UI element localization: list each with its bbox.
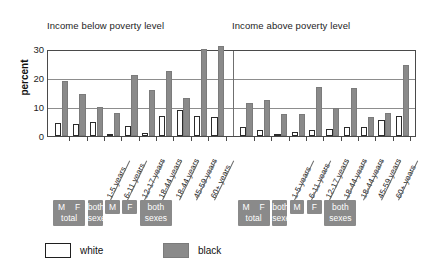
bar-white-both-sexes-above	[274, 134, 280, 136]
category-box-both-sexes-1-below: bothsexes	[88, 200, 103, 226]
bar-white-60+-years-below	[211, 117, 217, 136]
bar-black-60+-years-above	[403, 65, 409, 136]
panel-title-right: Income above poverty level	[232, 20, 350, 31]
bar-black-1-5-years-below	[114, 113, 120, 136]
bar-black-18-44-years-above	[351, 88, 357, 136]
bar-white-12-17-years-below	[142, 133, 148, 136]
category-box-both-sexes-1-above: bothsexes	[272, 200, 287, 226]
catbox-m-above: M	[242, 202, 249, 213]
bar-black-f-total-below	[79, 94, 85, 136]
bar-white-both-sexes-below	[90, 122, 96, 137]
bar-black-12-17-years-above	[333, 108, 339, 136]
bar-white-f-total-above	[257, 130, 263, 136]
bar-black-18-44-years-below	[166, 71, 172, 136]
legend-swatch-black	[163, 243, 189, 258]
age-group-labels: 1-5 years6-11 years12-17 years18-44 year…	[0, 138, 426, 200]
bar-white-18-44-years-below	[159, 116, 165, 136]
bar-black-45-59-years-below	[201, 49, 207, 136]
bar-black-f-total-above	[264, 100, 270, 136]
bar-black-6-11-years-below	[131, 75, 137, 136]
panel-title-left: Income below poverty level	[47, 20, 164, 31]
bars-container	[48, 51, 415, 136]
bar-black-both-sexes-below	[97, 107, 103, 136]
bar-white-6-11-years-above	[309, 130, 315, 136]
y-axis-ticks: 30 20 10 0	[20, 0, 44, 274]
category-box-male-below: M	[105, 200, 120, 214]
bar-black-m-total-below	[62, 81, 68, 136]
legend-label-black: black	[198, 245, 221, 256]
y-tick-10: 10	[22, 102, 44, 113]
category-boxes: MFtotalbothsexesMFbothsexesMFtotalbothse…	[0, 200, 426, 230]
bar-white-1-5-years-above	[292, 132, 298, 136]
bar-white-m-total-below	[55, 123, 61, 136]
bar-white-18-44-years-below	[177, 110, 183, 136]
category-box-male-above: M	[290, 200, 305, 214]
bar-black-18-44-years-below	[183, 98, 189, 136]
plot-area	[47, 50, 416, 137]
legend-label-white: white	[80, 245, 103, 256]
category-box-both-sexes-4-below: bothsexes	[140, 200, 172, 226]
bar-black-1-5-years-above	[299, 114, 305, 136]
bar-black-12-17-years-below	[149, 90, 155, 136]
category-box-female-above: F	[307, 200, 322, 214]
category-box-female-below: F	[122, 200, 137, 214]
bar-white-12-17-years-above	[326, 129, 332, 136]
legend-item-white: white	[45, 243, 103, 258]
bar-white-45-59-years-below	[194, 116, 200, 136]
legend-item-black: black	[163, 243, 221, 258]
bar-black-60+-years-below	[218, 46, 224, 136]
category-box-mf-total-above: MFtotal	[238, 200, 270, 226]
catbox-total-above: total	[238, 213, 270, 224]
legend-swatch-white	[45, 243, 71, 258]
bar-black-6-11-years-above	[316, 87, 322, 136]
panel-separator	[233, 51, 234, 136]
catbox-f-above: F	[260, 202, 265, 213]
bar-black-18-44-years-above	[368, 117, 374, 136]
catbox-m-below: M	[58, 202, 65, 213]
catbox-total-below: total	[53, 213, 85, 224]
bar-white-18-44-years-above	[344, 127, 350, 136]
y-tick-30: 30	[22, 44, 44, 55]
bar-black-m-total-above	[246, 103, 252, 136]
bar-black-45-59-years-above	[385, 113, 391, 136]
bar-white-1-5-years-below	[107, 134, 113, 136]
bar-black-both-sexes-above	[281, 114, 287, 136]
bar-white-m-total-above	[240, 127, 246, 136]
category-box-both-sexes-4-above: bothsexes	[324, 200, 356, 226]
bar-white-18-44-years-above	[361, 127, 367, 136]
bar-white-f-total-below	[73, 124, 79, 136]
bar-white-45-59-years-above	[378, 120, 384, 136]
chart-figure: Income below poverty level Income above …	[0, 0, 426, 274]
catbox-f-below: F	[75, 202, 80, 213]
bar-white-60+-years-above	[396, 116, 402, 136]
y-tick-20: 20	[22, 73, 44, 84]
bar-white-6-11-years-below	[125, 126, 131, 136]
category-box-mf-total-below: MFtotal	[53, 200, 85, 226]
